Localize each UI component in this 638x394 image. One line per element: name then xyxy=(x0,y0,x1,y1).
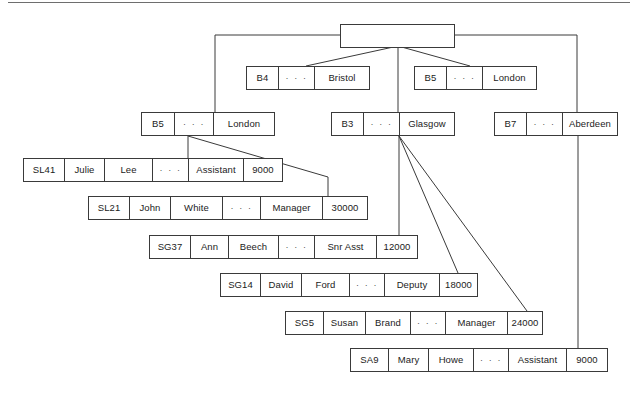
branch-record-b4-bristol[interactable]: B4 · · · Bristol xyxy=(246,66,370,90)
staff-record-sl41[interactable]: SL41 Julie Lee · · · Assistant 9000 xyxy=(23,158,283,182)
staff-lastname: Beech xyxy=(229,236,279,258)
staff-record-sg14[interactable]: SG14 David Ford · · · Deputy 18000 xyxy=(220,273,478,297)
branch-ellipsis: · · · xyxy=(364,113,400,135)
staff-salary: 30000 xyxy=(323,197,367,219)
branch-city: Aberdeen xyxy=(563,113,617,135)
staff-ellipsis: · · · xyxy=(279,236,315,258)
staff-number: SL41 xyxy=(24,159,65,181)
staff-position: Manager xyxy=(446,312,508,334)
edge-root-to-london1 xyxy=(398,46,470,66)
staff-firstname: Mary xyxy=(389,349,429,371)
branch-ellipsis: · · · xyxy=(175,113,214,135)
staff-lastname: Brand xyxy=(366,312,411,334)
branch-record-b3-glasgow[interactable]: B3 · · · Glasgow xyxy=(331,112,455,136)
staff-record-sa9[interactable]: SA9 Mary Howe · · · Assistant 9000 xyxy=(350,348,608,372)
staff-firstname: David xyxy=(261,274,302,296)
staff-number: SA9 xyxy=(351,349,389,371)
staff-position: Manager xyxy=(261,197,323,219)
staff-number: SG37 xyxy=(150,236,191,258)
staff-number: SG5 xyxy=(286,312,324,334)
staff-number: SL21 xyxy=(89,197,130,219)
staff-record-sg37[interactable]: SG37 Ann Beech · · · Snr Asst 12000 xyxy=(149,235,418,259)
branch-ellipsis: · · · xyxy=(447,67,483,89)
branch-code: B4 xyxy=(247,67,279,89)
staff-lastname: Lee xyxy=(105,159,153,181)
staff-number: SG14 xyxy=(221,274,261,296)
staff-record-sl21[interactable]: SL21 John White · · · Manager 30000 xyxy=(88,196,368,220)
branch-city: London xyxy=(483,67,536,89)
staff-position: Snr Asst xyxy=(315,236,377,258)
branch-city: Glasgow xyxy=(400,113,454,135)
staff-firstname: Julie xyxy=(65,159,105,181)
staff-position: Deputy xyxy=(385,274,440,296)
branch-ellipsis: · · · xyxy=(279,67,315,89)
staff-salary: 24000 xyxy=(508,312,542,334)
staff-ellipsis: · · · xyxy=(153,159,189,181)
staff-salary: 18000 xyxy=(440,274,477,296)
staff-lastname: Ford xyxy=(302,274,350,296)
staff-ellipsis: · · · xyxy=(411,312,446,334)
staff-firstname: John xyxy=(130,197,171,219)
branch-code: B5 xyxy=(415,67,447,89)
page-header-rule xyxy=(8,2,630,3)
diagram-canvas: B4 · · · Bristol B5 · · · London B5 · · … xyxy=(0,0,638,394)
staff-ellipsis: · · · xyxy=(350,274,385,296)
edge-root-to-bristol xyxy=(306,46,398,66)
staff-salary: 9000 xyxy=(244,159,282,181)
branch-record-b5-london-lower[interactable]: B5 · · · London xyxy=(141,112,275,136)
staff-ellipsis: · · · xyxy=(223,197,261,219)
branch-ellipsis: · · · xyxy=(527,113,563,135)
staff-salary: 12000 xyxy=(377,236,417,258)
branch-city: Bristol xyxy=(315,67,369,89)
staff-salary: 9000 xyxy=(567,349,607,371)
staff-lastname: White xyxy=(171,197,223,219)
staff-firstname: Susan xyxy=(324,312,366,334)
staff-record-sg5[interactable]: SG5 Susan Brand · · · Manager 24000 xyxy=(285,311,543,335)
branch-record-b7-aberdeen[interactable]: B7 · · · Aberdeen xyxy=(494,112,618,136)
branch-city: London xyxy=(214,113,274,135)
branch-record-b5-london-upper[interactable]: B5 · · · London xyxy=(414,66,537,90)
branch-code: B7 xyxy=(495,113,527,135)
branch-code: B5 xyxy=(142,113,175,135)
staff-ellipsis: · · · xyxy=(474,349,509,371)
branch-code: B3 xyxy=(332,113,364,135)
root-node[interactable] xyxy=(340,24,455,48)
staff-position: Assistant xyxy=(509,349,567,371)
staff-firstname: Ann xyxy=(191,236,229,258)
staff-position: Assistant xyxy=(189,159,244,181)
staff-lastname: Howe xyxy=(429,349,474,371)
